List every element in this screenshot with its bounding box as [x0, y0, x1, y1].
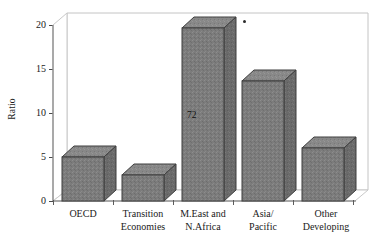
x-category-line2: Developing: [283, 221, 369, 234]
bar-transition-economies: [122, 164, 176, 201]
bar-other-developing: [302, 137, 356, 201]
marker-dot-icon: [243, 20, 246, 23]
x-category-line1: Other: [283, 208, 369, 221]
bar-value-annotation-72: 72: [187, 110, 197, 120]
bar-meast-nafrica: [182, 17, 236, 201]
bar-oecd: [62, 146, 116, 201]
x-category-label-other-developing: Other Developing: [283, 208, 369, 233]
bar-asia-pacific: [242, 70, 296, 201]
bar-chart: Ratio 20 15 10 5 0: [0, 0, 376, 246]
